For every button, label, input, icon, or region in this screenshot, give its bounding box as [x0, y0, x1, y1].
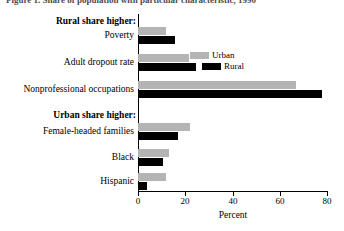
- bar-urban: [138, 27, 166, 35]
- bar-urban: [138, 149, 169, 157]
- bar-urban: [138, 81, 296, 89]
- bar-rural: [138, 132, 178, 140]
- bar-rural: [138, 36, 175, 44]
- category-label: Poverty: [0, 30, 134, 40]
- legend-swatch-rural: [202, 63, 221, 70]
- legend-label-rural: Rural: [224, 61, 244, 71]
- group-heading-urban: Urban share higher:: [0, 110, 136, 121]
- figure-title: Figure 1. Share of population with parti…: [6, 0, 342, 5]
- x-axis-tick-label: 80: [315, 196, 339, 207]
- x-axis-title: Percent: [138, 210, 328, 221]
- category-label: Nonprofessional occupations: [0, 84, 134, 94]
- x-axis-tick-label: 20: [173, 196, 197, 207]
- bar-urban: [138, 54, 189, 62]
- figure-container: Figure 1. Share of population with parti…: [0, 0, 344, 231]
- category-label: Adult dropout rate: [0, 57, 134, 67]
- bar-rural: [138, 182, 147, 190]
- bar-rural: [138, 90, 322, 98]
- x-axis-tick-label: 60: [268, 196, 292, 207]
- legend-label-urban: Urban: [212, 50, 235, 60]
- category-label: Black: [0, 152, 134, 162]
- bar-rural: [138, 158, 163, 166]
- bar-urban: [138, 173, 166, 181]
- bar-urban: [138, 123, 190, 131]
- group-heading-rural: Rural share higher:: [0, 16, 136, 27]
- x-axis-tick-label: 40: [221, 196, 245, 207]
- category-label: Hispanic: [0, 176, 134, 186]
- x-axis-tick-label: 0: [126, 196, 150, 207]
- bar-rural: [138, 63, 196, 71]
- category-label: Female-headed families: [0, 126, 134, 136]
- legend-swatch-urban: [190, 52, 209, 59]
